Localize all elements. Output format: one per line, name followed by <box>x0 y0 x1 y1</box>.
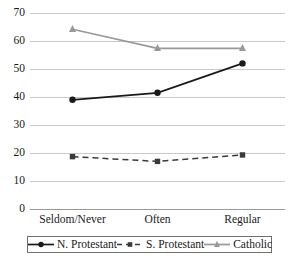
data-point-1-2 <box>240 152 245 157</box>
legend-label-1: S. Protestant <box>146 239 204 251</box>
line-chart: 010203040506070 Seldom/NeverOftenRegular… <box>0 0 297 262</box>
legend-swatch-triangle-icon <box>204 239 230 250</box>
x-tick-label-2: Regular <box>224 214 260 226</box>
y-tick-label-10: 10 <box>14 175 26 187</box>
legend-item-0[interactable]: N. Protestant <box>28 239 117 251</box>
y-tick-label-20: 20 <box>14 147 26 159</box>
legend-item-1[interactable]: S. Protestant <box>117 239 204 251</box>
series-1 <box>70 152 245 164</box>
data-point-2-0 <box>69 25 76 32</box>
data-point-1-1 <box>155 159 160 164</box>
data-point-0-2 <box>239 60 245 66</box>
series-0 <box>69 60 245 103</box>
y-tick-label-50: 50 <box>14 63 26 75</box>
legend-item-2[interactable]: Catholic <box>204 239 272 251</box>
x-tick-label-0: Seldom/Never <box>39 214 105 226</box>
y-tick-label-0: 0 <box>19 203 25 215</box>
y-tick-label-30: 30 <box>14 119 26 131</box>
plot-area: 010203040506070 Seldom/NeverOftenRegular <box>30 13 285 209</box>
y-tick-label-60: 60 <box>14 35 26 47</box>
legend-label-0: N. Protestant <box>57 239 117 251</box>
y-tick-label-70: 70 <box>14 7 26 19</box>
data-point-0-1 <box>154 90 160 96</box>
series-2 <box>69 25 246 51</box>
data-point-1-0 <box>70 154 75 159</box>
y-tick-label-40: 40 <box>14 91 26 103</box>
series-layer <box>30 13 285 209</box>
legend-label-2: Catholic <box>233 239 272 251</box>
x-tick-label-1: Often <box>144 214 170 226</box>
chart-legend: N. ProtestantS. ProtestantCatholic <box>27 236 272 253</box>
legend-swatch-circle-icon <box>28 239 54 250</box>
gridline-0 <box>30 209 285 210</box>
data-point-0-0 <box>69 97 75 103</box>
legend-swatch-square-icon <box>117 239 143 250</box>
